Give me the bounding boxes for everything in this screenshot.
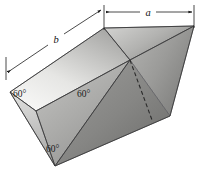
dim-line-b-lower <box>8 45 48 72</box>
dim-line-b-upper <box>64 10 101 34</box>
solid-faces <box>10 26 194 166</box>
geometry-figure: a b 60° 60° 60° <box>0 0 202 179</box>
angle-label-bottom: 60° <box>46 144 60 154</box>
dimension-label-b: b <box>53 34 58 45</box>
prism-illustration: a b 60° 60° 60° <box>0 0 202 179</box>
dimension-label-a: a <box>145 7 150 18</box>
angle-label-left: 60° <box>13 89 27 99</box>
angle-label-middle: 60° <box>77 89 91 99</box>
